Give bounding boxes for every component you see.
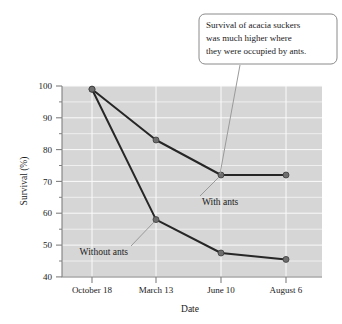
series-label-with-ants: With ants (202, 197, 239, 207)
data-point (283, 256, 289, 262)
y-tick-label: 50 (43, 240, 53, 250)
x-tick-label: June 10 (207, 285, 235, 295)
callout-line: they were occupied by ants. (206, 46, 306, 56)
y-tick-label: 80 (43, 145, 53, 155)
data-point (153, 137, 159, 143)
x-tick-label: March 13 (139, 285, 174, 295)
x-axis-title: Date (181, 304, 199, 314)
data-point (218, 250, 224, 256)
y-axis-major-ticks (56, 86, 62, 277)
y-tick-label: 70 (43, 177, 53, 187)
callout-line: Survival of acacia suckers (206, 20, 301, 30)
x-tick-label: October 18 (72, 285, 113, 295)
data-point (89, 86, 95, 92)
callout-annotation: Survival of acacia suckers was much high… (199, 14, 337, 64)
y-tick-label: 60 (43, 208, 53, 218)
survival-line-chart: 100 90 80 70 60 50 40 October 18 March 1… (0, 0, 342, 324)
x-tick-label: August 6 (270, 285, 303, 295)
y-axis-title: Survival (%) (19, 157, 30, 206)
y-axis-tick-labels: 100 90 80 70 60 50 40 (39, 81, 53, 282)
callout-line: was much higher where (206, 33, 292, 43)
data-point (153, 217, 159, 223)
y-tick-label: 40 (43, 272, 53, 282)
data-point (283, 172, 289, 178)
y-tick-label: 90 (43, 113, 53, 123)
y-tick-label: 100 (39, 81, 53, 91)
x-axis-tick-labels: October 18 March 13 June 10 August 6 (72, 285, 303, 295)
series-label-without-ants: Without ants (80, 247, 129, 257)
x-axis-ticks (92, 277, 286, 283)
